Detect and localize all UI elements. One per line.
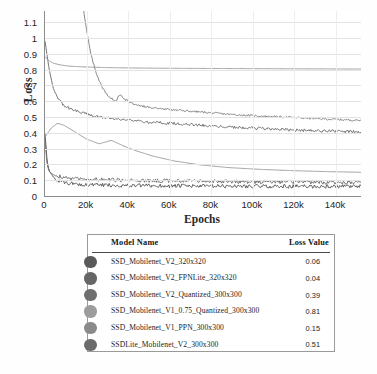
legend-model-name: SSD_Mobilenet_V1_PPN_300x300 <box>111 323 224 332</box>
legend-header-row: Model Name Loss Value <box>92 237 330 253</box>
grid-line <box>45 149 361 150</box>
grid-line-vertical <box>87 11 88 196</box>
x-axis-label: Epochs <box>44 213 360 225</box>
grid-line-vertical <box>170 11 171 196</box>
y-tick-label: 0.8 <box>1 64 37 75</box>
legend-row: SSD_Mobilenet_V2_FPNLite_320x3200.04 <box>92 270 330 287</box>
legend-loss-value: 0.15 <box>306 324 320 333</box>
x-tick-label: 20k <box>78 199 93 210</box>
legend-model-name: SSDLite_Mobilenet_V2_300x300 <box>111 340 218 349</box>
x-tick-label: 0 <box>41 199 46 210</box>
legend-model-name: SSD_Mobilenet_V2_Quantized_300x300 <box>111 290 242 299</box>
grid-line-vertical <box>294 11 295 196</box>
legend-loss-value: 0.81 <box>306 307 320 316</box>
legend-swatch-circle-icon <box>84 256 97 269</box>
grid-line <box>45 22 361 23</box>
grid-line <box>45 117 361 118</box>
loss-curve <box>45 139 361 184</box>
column-header-loss-value: Loss Value <box>289 238 329 247</box>
grid-line <box>45 180 361 181</box>
x-tick-label: 60k <box>161 199 176 210</box>
legend-row: SSD_Mobilenet_V2_Quantized_300x3000.39 <box>92 286 330 303</box>
x-tick-label: 40k <box>119 199 134 210</box>
legend-swatch-circle-icon <box>84 322 97 335</box>
y-tick-label: 0.5 <box>1 111 37 122</box>
y-tick-label: 0.4 <box>1 127 37 138</box>
legend-model-name: SSD_Mobilenet_V2_320x320 <box>111 257 206 266</box>
y-tick-label: 1.1 <box>1 17 37 28</box>
legend-swatch-circle-icon <box>84 339 97 352</box>
legend-row: SSD_Mobilenet_V1_PPN_300x3000.15 <box>92 319 330 336</box>
grid-line-vertical <box>336 11 337 196</box>
legend-loss-value: 0.51 <box>306 340 320 349</box>
legend-model-name: SSD_Mobilenet_V1_0.75_Quantized_300x300 <box>111 306 259 315</box>
x-tick-label: 100k <box>242 199 263 210</box>
x-tick-label: 80k <box>203 199 218 210</box>
grid-line <box>45 164 361 165</box>
legend-table: Model Name Loss Value SSD_Mobilenet_V2_3… <box>87 234 335 352</box>
y-tick-label: 1 <box>1 32 37 43</box>
y-tick-label: 0.9 <box>1 48 37 59</box>
y-axis-ticks: 00.10.20.30.40.50.60.70.80.911.1 <box>0 0 40 185</box>
x-tick-label: 120k <box>283 199 304 210</box>
legend-row: SSDLite_Mobilenet_V2_300x3000.51 <box>92 336 330 353</box>
y-tick-label: 0.1 <box>1 175 37 186</box>
grid-line-vertical <box>253 11 254 196</box>
y-tick-label: 0 <box>1 191 37 202</box>
legend-swatch-circle-icon <box>84 272 97 285</box>
loss-chart: Loss 00.10.20.30.40.50.60.70.80.911.1 02… <box>0 0 377 232</box>
plot-area <box>44 11 361 197</box>
y-tick-label: 0.7 <box>1 80 37 91</box>
legend-row: SSD_Mobilenet_V2_320x3200.06 <box>92 253 330 270</box>
grid-line-vertical <box>128 11 129 196</box>
legend-loss-value: 0.04 <box>306 274 320 283</box>
y-tick-label: 0.3 <box>1 143 37 154</box>
legend-loss-value: 0.06 <box>306 257 320 266</box>
legend-model-name: SSD_Mobilenet_V2_FPNLite_320x320 <box>111 273 237 282</box>
legend-loss-value: 0.39 <box>306 291 320 300</box>
legend-row: SSD_Mobilenet_V1_0.75_Quantized_300x3000… <box>92 303 330 320</box>
grid-line <box>45 38 361 39</box>
legend-swatch-circle-icon <box>84 289 97 302</box>
grid-line <box>45 54 361 55</box>
grid-line <box>45 101 361 102</box>
grid-line <box>45 85 361 86</box>
legend-rows: SSD_Mobilenet_V2_320x3200.06SSD_Mobilene… <box>88 253 334 353</box>
loss-curve <box>82 11 361 121</box>
y-tick-label: 0.6 <box>1 96 37 107</box>
column-header-model-name: Model Name <box>111 238 158 247</box>
grid-line-vertical <box>211 11 212 196</box>
figure-container: Loss 00.10.20.30.40.50.60.70.80.911.1 02… <box>0 0 377 374</box>
x-tick-label: 140k <box>325 199 346 210</box>
legend-swatch-circle-icon <box>84 305 97 318</box>
grid-line <box>45 133 361 134</box>
grid-line <box>45 70 361 71</box>
y-tick-label: 0.2 <box>1 159 37 170</box>
